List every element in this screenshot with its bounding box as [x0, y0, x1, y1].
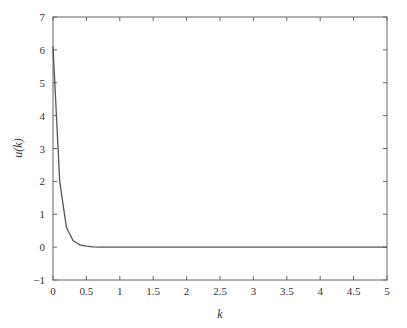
x-tick-label: 3.5 — [280, 285, 294, 297]
y-axis-label: u(k) — [11, 138, 25, 157]
data-series — [53, 47, 387, 248]
series-line-u-k — [53, 47, 387, 248]
x-tick-label: 5 — [384, 285, 390, 297]
x-tick-label: 0.5 — [80, 285, 94, 297]
x-tick-label: 2.5 — [213, 285, 227, 297]
y-tick-label: 0 — [40, 241, 46, 253]
y-tick-label: 1 — [40, 208, 46, 220]
x-tick-label: 1 — [117, 285, 123, 297]
y-tick-label: 6 — [40, 44, 46, 56]
chart: 00.511.522.533.544.55 −101234567 k u(k) — [0, 0, 407, 328]
x-tick-label: 2 — [184, 285, 190, 297]
y-tick-label: −1 — [33, 274, 45, 286]
x-tick-label: 3 — [251, 285, 257, 297]
y-axis-ticks: −101234567 — [33, 11, 387, 286]
x-axis-label: k — [217, 307, 223, 321]
y-tick-label: 5 — [40, 77, 46, 89]
y-tick-label: 2 — [40, 175, 46, 187]
x-tick-label: 1.5 — [146, 285, 160, 297]
x-tick-label: 4.5 — [347, 285, 361, 297]
x-axis-ticks: 00.511.522.533.544.55 — [50, 17, 390, 297]
y-tick-label: 7 — [40, 11, 46, 23]
plot-area-border — [53, 17, 387, 280]
plot-frame — [53, 17, 387, 280]
y-tick-label: 3 — [40, 143, 46, 155]
y-tick-label: 4 — [40, 110, 46, 122]
x-tick-label: 4 — [317, 285, 323, 297]
x-tick-label: 0 — [50, 285, 56, 297]
